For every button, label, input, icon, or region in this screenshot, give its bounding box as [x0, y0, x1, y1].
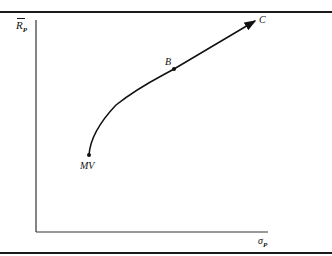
point-mv-label: MV — [80, 161, 94, 171]
x-axis-label: σP — [258, 236, 267, 250]
chart-canvas — [0, 0, 332, 256]
frontier-curve — [89, 21, 255, 155]
y-axis-label: RP — [16, 20, 27, 35]
point-b-label: B — [165, 57, 171, 67]
point-c-label: C — [259, 15, 266, 25]
point-mv-marker — [87, 153, 91, 157]
overbar — [17, 18, 25, 19]
point-b-marker — [172, 67, 176, 71]
